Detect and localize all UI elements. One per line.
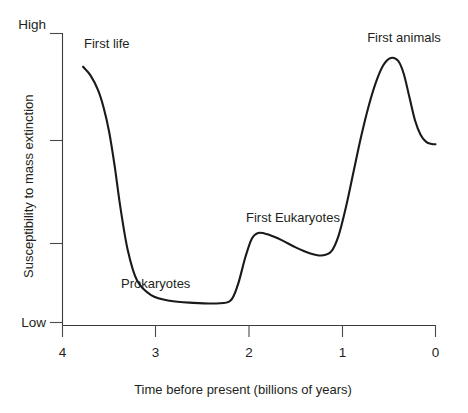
annotation-first-eukaryotes: First Eukaryotes [246, 210, 340, 225]
x-tick-label-2: 2 [245, 345, 253, 360]
annotation-first-life: First life [84, 36, 130, 51]
y-axis-title: Susceptibility to mass extinction [21, 94, 36, 278]
y-axis-high-label: High [18, 17, 46, 32]
chart-figure: High Low 4 3 2 1 0 Time before present (… [0, 0, 468, 413]
x-tick-label-1: 1 [339, 345, 347, 360]
x-axis-title: Time before present (billions of years) [134, 382, 352, 397]
annotation-first-animals: First animals [367, 30, 441, 45]
susceptibility-line-chart: High Low 4 3 2 1 0 Time before present (… [0, 0, 468, 413]
x-tick-label-4: 4 [59, 345, 67, 360]
annotation-prokaryotes: Prokaryotes [121, 276, 191, 291]
x-tick-label-3: 3 [152, 345, 160, 360]
x-tick-label-0: 0 [432, 345, 440, 360]
y-axis-low-label: Low [21, 315, 46, 330]
